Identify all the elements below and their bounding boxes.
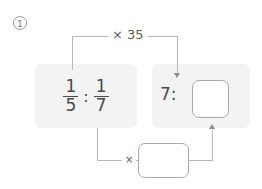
fraction-one-seventh-numerator: 1 [94,78,109,95]
bottom-connector-right-horizontal-line [188,160,213,161]
worksheet-page: 1 × 35 1 5 : 1 7 7: × [0,0,262,189]
bottom-connector-left-drop-line [97,128,98,160]
fraction-one-seventh: 1 7 [94,78,109,114]
bottom-connector-right-rise-line [212,130,213,161]
left-ratio-expression: 1 5 : 1 7 [35,64,137,128]
arrow-down-icon [174,73,180,78]
multiply-operator-label: × [122,155,136,165]
multiply-by-35-label: × 35 [108,28,148,41]
arrow-up-icon [209,124,215,129]
factor-answer-box[interactable] [138,143,189,178]
right-ratio-expression: 7: [160,86,177,103]
result-answer-box[interactable] [192,80,229,118]
fraction-one-fifth-denominator: 5 [63,96,78,114]
exercise-number-badge: 1 [13,16,27,30]
right-ratio-known-value: 7 [160,84,171,104]
left-ratio-colon: : [78,87,93,106]
right-ratio-colon: : [171,84,177,104]
fraction-one-seventh-denominator: 7 [94,96,109,114]
top-connector-right-drop-line [177,36,178,74]
fraction-one-fifth-numerator: 1 [63,78,78,95]
fraction-one-fifth: 1 5 [63,78,78,114]
